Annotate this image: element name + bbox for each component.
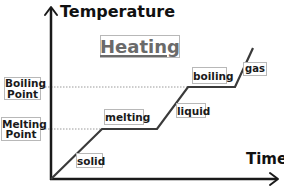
diagram-title-box: Heating	[100, 35, 180, 58]
diagram-title: Heating	[100, 38, 180, 56]
boiling-point-label-line2: Point	[5, 89, 40, 100]
boiling-phase-label: boiling	[192, 67, 227, 84]
boiling-point-label: Boiling Point	[4, 77, 41, 100]
x-axis-label: Time	[246, 152, 284, 167]
liquid-phase-label: liquid	[176, 103, 206, 118]
boiling-point-label-line1: Boiling	[5, 78, 40, 89]
heating-curve-diagram	[0, 0, 284, 190]
melting-point-label-line2: Point	[2, 129, 40, 140]
solid-phase-label: solid	[76, 153, 103, 168]
melting-point-label: Melting Point	[1, 117, 41, 141]
y-axis-label: Temperature	[60, 4, 175, 20]
melting-phase-label: melting	[104, 109, 144, 125]
gas-phase-label: gas	[243, 62, 267, 76]
